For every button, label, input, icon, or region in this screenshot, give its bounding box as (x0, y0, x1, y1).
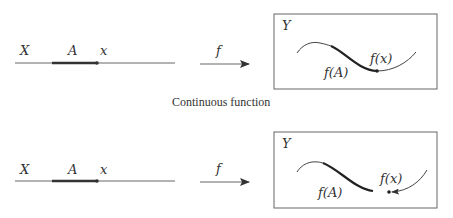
map-label: f (215, 43, 223, 58)
map-label: f (215, 161, 223, 176)
codomain-label: Y (282, 18, 292, 33)
panel-discontinuous: X A x f Y f(x) f(A) (15, 132, 437, 208)
image-point-label: f(x) (379, 171, 402, 186)
domain-label: X (19, 43, 30, 58)
image-curve (297, 42, 416, 72)
image-point-dot (387, 190, 391, 194)
image-label: f(A) (317, 185, 342, 200)
panel-continuous: X A x f Y f(x) f(A) (15, 14, 437, 89)
caption: Continuous function (172, 95, 270, 109)
domain-line (15, 179, 175, 183)
image-curve (297, 162, 427, 194)
codomain-label: Y (282, 136, 292, 151)
subset-label: A (67, 43, 77, 58)
domain-label: X (19, 162, 30, 177)
subset-label: A (67, 162, 77, 177)
image-point-dot (375, 69, 379, 73)
point-x-dot (95, 179, 99, 183)
continuity-diagram: X A x f Y f(x) f(A) Continuous function … (0, 0, 453, 218)
domain-line (15, 61, 175, 65)
point-x-dot (95, 61, 99, 65)
point-label: x (100, 43, 108, 58)
image-label: f(A) (323, 65, 348, 80)
image-point-label: f(x) (369, 51, 392, 66)
point-label: x (100, 162, 108, 177)
